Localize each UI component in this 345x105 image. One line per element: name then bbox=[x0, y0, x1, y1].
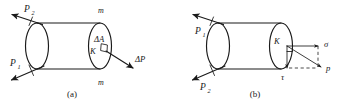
label-force-p1-subscript-b: 1 bbox=[203, 31, 206, 38]
label-force-p1-b: P bbox=[194, 26, 201, 36]
label-force-p2-b: P bbox=[199, 82, 206, 92]
label-point-k-a: K bbox=[89, 46, 97, 56]
label-section-top-a: m bbox=[98, 6, 104, 15]
label-element-area-a: ΔA bbox=[93, 34, 105, 44]
force-arrow-lower-left-b bbox=[193, 66, 226, 80]
force-arrow-lower-left-a bbox=[12, 66, 45, 80]
cylinder-a bbox=[26, 23, 112, 69]
force-vector-p2-a bbox=[12, 15, 43, 26]
label-total-stress-b: p bbox=[325, 63, 331, 73]
figure-container: P 2 P 1 m m ΔA K ΔP (a) bbox=[0, 0, 345, 105]
label-shear-stress-b: τ bbox=[281, 72, 285, 82]
force-vector-p2-b bbox=[193, 65, 226, 80]
label-force-p2-subscript-b: 2 bbox=[208, 87, 211, 94]
label-force-p2-a: P bbox=[23, 4, 30, 14]
force-vector-delta-p-a bbox=[106, 51, 133, 68]
force-arrow-upper-left-a bbox=[12, 15, 43, 25]
panel-b: P 1 P 2 K σ τ p (b) bbox=[193, 15, 332, 100]
mechanics-figure: P 2 P 1 m m ΔA K ΔP (a) bbox=[0, 0, 345, 105]
force-arrow-delta-p-a bbox=[106, 51, 133, 68]
label-force-p1-subscript-a: 1 bbox=[18, 63, 21, 70]
caption-panel-b: (b) bbox=[250, 89, 261, 99]
cylinder-b bbox=[207, 23, 293, 69]
cylinder-left-end-b bbox=[207, 23, 230, 69]
panel-a: P 2 P 1 m m ΔA K ΔP (a) bbox=[9, 4, 146, 99]
label-normal-stress-b: σ bbox=[324, 39, 329, 49]
label-point-k-b: K bbox=[273, 36, 281, 46]
label-force-p2-subscript-a: 2 bbox=[32, 9, 35, 16]
force-arrow-upper-left-b bbox=[193, 15, 224, 25]
stress-resolution-b bbox=[287, 46, 321, 68]
cylinder-left-end-a bbox=[26, 23, 49, 69]
force-vector-p1-b bbox=[193, 15, 224, 26]
label-element-force-a: ΔP bbox=[134, 54, 146, 64]
label-force-p1-a: P bbox=[9, 58, 16, 68]
label-section-bottom-a: m bbox=[98, 78, 104, 87]
force-vector-p1-a bbox=[12, 65, 45, 80]
caption-panel-a: (a) bbox=[67, 89, 77, 99]
